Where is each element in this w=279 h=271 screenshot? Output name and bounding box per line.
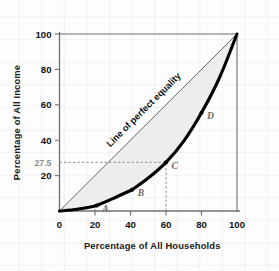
data-point-b: [130, 187, 134, 191]
data-point-label-a: A: [101, 203, 108, 214]
y-extra-tick-label: 27.5: [34, 158, 51, 168]
x-tick-label: 80: [196, 219, 207, 230]
x-tick-label: 60: [161, 219, 172, 230]
line-of-perfect-equality: [60, 34, 238, 211]
y-tick-label: 40: [41, 135, 52, 146]
y-tick-label: 60: [41, 99, 52, 110]
data-point-label-d: D: [206, 110, 214, 121]
data-point-label-c: C: [172, 160, 179, 171]
data-point-a: [95, 203, 99, 207]
y-tick-label: 20: [41, 170, 52, 181]
x-axis-title: Percentage of All Households: [84, 240, 221, 251]
data-point-c: [164, 160, 168, 164]
chart-figure: ABCD 0204060801002040608010027.5 Line of…: [0, 0, 279, 271]
x-tick-label: 40: [125, 219, 136, 230]
data-point-label-b: B: [137, 187, 145, 198]
data-point-d: [199, 111, 203, 115]
x-tick-label: 20: [90, 219, 101, 230]
plot-area: ABCD 0204060801002040608010027.5 Line of…: [0, 0, 279, 271]
lorenz-curve-chart: ABCD 0204060801002040608010027.5 Line of…: [0, 0, 279, 271]
y-tick-label: 100: [35, 29, 51, 40]
x-axis-ticks: [95, 211, 202, 216]
y-tick-label: 80: [41, 64, 52, 75]
y-axis-title: Percentage of All Income: [11, 65, 22, 180]
y-axis-ticks: [55, 34, 60, 176]
x-tick-label: 0: [57, 219, 62, 230]
x-tick-label: 100: [229, 219, 245, 230]
